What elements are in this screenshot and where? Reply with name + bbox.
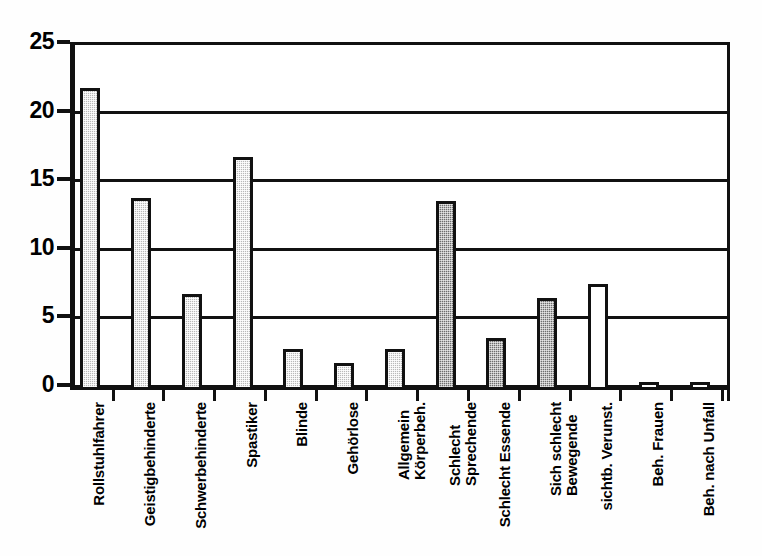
- bar-4: [283, 349, 303, 390]
- y-axis-tick-mark: [57, 383, 70, 387]
- x-axis-label-line: Spastiker: [244, 402, 260, 468]
- x-axis-label-1: Geistigbehinderte: [142, 402, 158, 526]
- x-axis-label-line: Sprechende: [463, 402, 479, 486]
- bar-6: [385, 349, 405, 390]
- x-axis-label-line: Blinde: [294, 402, 310, 447]
- y-axis-tick-mark: [57, 314, 70, 318]
- x-axis-label-6: AllgemeinKörperbeh.: [396, 402, 428, 480]
- bars-container: [70, 42, 730, 390]
- x-axis-label-4: Blinde: [294, 402, 310, 447]
- y-axis-tick-mark: [57, 109, 70, 113]
- x-axis-tick-mark: [467, 390, 470, 401]
- x-axis-tick-mark: [619, 390, 622, 401]
- x-axis-label-0: Rollstuhlfahrer: [91, 402, 107, 506]
- bar-5: [334, 363, 354, 390]
- x-axis-label-line: Rollstuhlfahrer: [91, 402, 107, 506]
- bar-2: [182, 294, 202, 390]
- bar-8: [486, 338, 506, 390]
- x-axis-label-3: Spastiker: [244, 402, 260, 468]
- bar-12: [690, 382, 710, 390]
- x-axis-tick-mark: [721, 390, 724, 401]
- bar-3: [233, 157, 253, 390]
- plot-area: [70, 42, 730, 390]
- bar-11: [639, 382, 659, 390]
- x-axis-label-line: sichtb. Verunst.: [599, 402, 615, 511]
- x-axis-ticks: [70, 390, 730, 402]
- x-axis-tick-mark: [365, 390, 368, 401]
- x-axis-label-2: Schwerbehinderte: [193, 402, 209, 529]
- x-axis-label-7: SchlechtSprechende: [447, 402, 479, 486]
- y-axis: 2520151050: [0, 0, 70, 392]
- x-axis-tick-mark: [569, 390, 572, 401]
- y-axis-tick-label: 10: [29, 233, 54, 261]
- x-axis-label-5: Gehörlose: [345, 402, 361, 474]
- x-axis-label-10: sichtb. Verunst.: [599, 402, 615, 511]
- x-axis-label-line: Beh. Frauen: [650, 402, 666, 486]
- x-axis-tick-mark: [264, 390, 267, 401]
- bar-7: [436, 201, 456, 390]
- y-axis-tick-label: 15: [29, 164, 54, 192]
- x-axis-tick-mark: [213, 390, 216, 401]
- y-axis-tick-label: 5: [42, 301, 54, 329]
- x-axis-label-line: Schlecht Essende: [497, 402, 513, 527]
- y-axis-tick-label: 25: [29, 27, 54, 55]
- x-axis-label-line: Schwerbehinderte: [193, 402, 209, 529]
- x-axis-label-line: Allgemein: [396, 402, 412, 480]
- y-axis-tick-mark: [57, 40, 70, 44]
- x-axis-tick-mark: [670, 390, 673, 401]
- x-axis-label-9: Sich schlechtBewegende: [548, 402, 580, 496]
- x-axis-tick-mark: [518, 390, 521, 401]
- x-axis-tick-mark: [416, 390, 419, 401]
- x-axis-label-line: Sich schlecht: [548, 402, 564, 496]
- x-axis-label-line: Körperbeh.: [412, 402, 428, 480]
- x-axis-label-line: Gehörlose: [345, 402, 361, 474]
- x-axis-label-11: Beh. Frauen: [650, 402, 666, 486]
- y-axis-tick-mark: [57, 177, 70, 181]
- bar-10: [588, 284, 608, 390]
- y-axis-tick-label: 20: [29, 96, 54, 124]
- x-axis-label-line: Bewegende: [564, 402, 580, 496]
- x-axis-labels: RollstuhlfahrerGeistigbehinderteSchwerbe…: [70, 402, 730, 552]
- x-axis-label-line: Schlecht: [447, 402, 463, 486]
- x-axis-tick-mark: [112, 390, 115, 401]
- y-axis-tick-mark: [57, 246, 70, 250]
- x-axis-label-8: Schlecht Essende: [497, 402, 513, 527]
- bar-1: [131, 198, 151, 390]
- bar-chart: 2520151050 RollstuhlfahrerGeistigbehinde…: [0, 0, 762, 556]
- x-axis-tick-mark: [727, 390, 730, 401]
- x-axis-tick-mark: [315, 390, 318, 401]
- x-axis-label-12: Beh. nach Unfall: [701, 402, 717, 516]
- x-axis-label-line: Geistigbehinderte: [142, 402, 158, 526]
- bar-0: [80, 88, 100, 390]
- x-axis-tick-mark: [162, 390, 165, 401]
- x-axis-label-line: Beh. nach Unfall: [701, 402, 717, 516]
- y-axis-tick-label: 0: [42, 370, 54, 398]
- bar-9: [537, 298, 557, 390]
